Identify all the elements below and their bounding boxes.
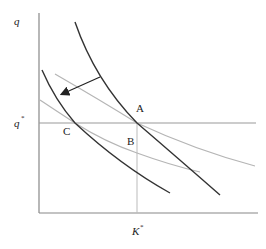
dark-curve-outer xyxy=(75,22,220,195)
gray-line-outer xyxy=(55,74,255,166)
diagram-canvas: q q * A B C K * xyxy=(0,0,266,249)
y-axis-label: q xyxy=(14,15,20,27)
dark-curve-inner xyxy=(42,70,170,193)
point-a-label: A xyxy=(136,102,144,114)
k-star-sup: * xyxy=(140,223,144,231)
k-star-label: K xyxy=(131,225,140,237)
q-star-label: q xyxy=(14,117,20,129)
point-c-label: C xyxy=(63,125,70,137)
point-b-label: B xyxy=(127,135,134,147)
shift-arrow xyxy=(62,77,100,94)
q-star-sup: * xyxy=(21,114,25,122)
